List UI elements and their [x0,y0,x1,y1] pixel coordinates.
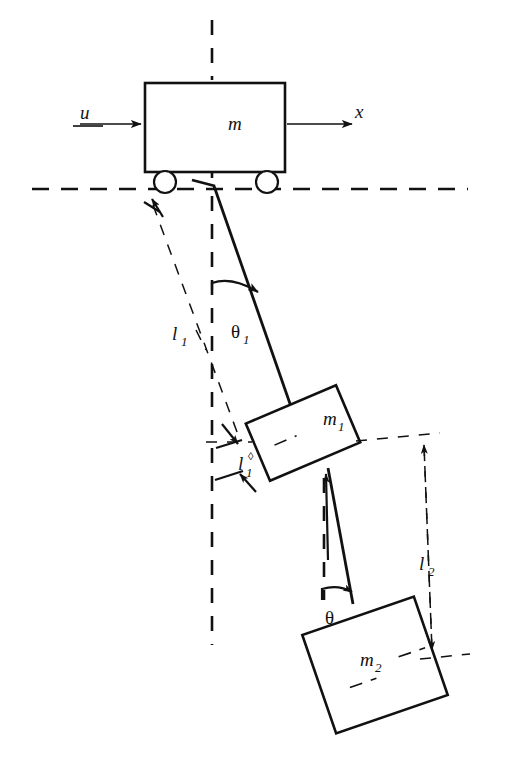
mass2-label: m [360,649,374,670]
angle1-subscript: 1 [243,332,250,347]
right-wheel [256,171,278,193]
link1-offset-superscript: ◊ [248,450,254,462]
pendulum-diagram-root: u x m θ 1 l 1 l ◊ 1 [0,0,520,769]
position-axis-label: x [354,101,364,122]
link1-offset-subscript: 1 [246,465,253,480]
input-force-label: u [80,102,90,123]
angle1-label: θ [231,321,240,342]
cart-mass-label: m [228,113,242,134]
pivot-tick [192,180,215,186]
upper-pendulum-rod [214,186,303,441]
l1-offset-tick-upper [216,440,242,448]
link2-length-label: l [419,553,424,574]
cart-body [145,83,285,172]
l2-dimension-arrow-down [424,445,432,650]
double-inverted-pendulum-figure: u x m θ 1 l 1 l ◊ 1 [0,0,520,769]
mass2-subscript: 2 [375,660,382,675]
left-wheel [154,171,176,193]
mass1-subscript: 1 [338,419,345,434]
lower-pendulum-rod [328,468,353,604]
link1-offset-label: l [238,453,243,474]
link1-length-label: l [172,323,177,344]
l2-top-reference-line [356,433,440,441]
l1-dashed-leader [153,205,240,440]
rod2-direction-arrow [326,474,328,560]
theta2-arc-arrow [322,587,352,592]
mass1-label: m [323,408,337,429]
link2-length-subscript: 2 [428,564,435,579]
link1-length-subscript: 1 [181,334,188,349]
